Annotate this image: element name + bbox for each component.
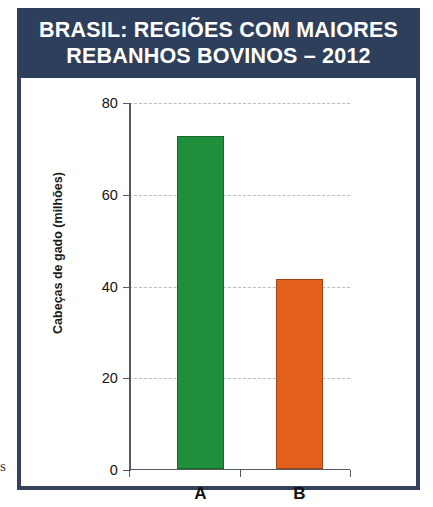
y-axis-line [129,103,131,471]
y-tick-label-80: 80 [102,95,127,111]
chart-title-banner: BRASIL: REGIÕES COM MAIORES REBANHOS BOV… [17,8,420,78]
chart-title-line-1: BRASIL: REGIÕES COM MAIORES [39,17,398,43]
edge-text-fragment: s [0,458,9,480]
y-axis-title: Cabeças de gado (milhões) [51,153,65,353]
y-tick-label-0: 0 [110,462,127,478]
bar-A[interactable] [177,136,224,469]
axes: 80 60 40 20 0 A B [129,103,350,470]
x-axis-line [129,469,350,471]
x-tick-mark-mid [240,470,241,477]
chart-title-line-2: REBANHOS BOVINOS – 2012 [66,43,371,69]
plot-area: Cabeças de gado (milhões) 80 60 40 20 0 [21,78,416,486]
x-tick-label-A: A [194,484,206,504]
gridline-60 [129,195,350,196]
figure-container: BRASIL: REGIÕES COM MAIORES REBANHOS BOV… [0,0,433,507]
x-tick-label-B: B [293,484,305,504]
bar-B[interactable] [276,279,323,469]
y-tick-label-20: 20 [102,370,127,386]
y-tick-label-40: 40 [102,279,127,295]
gridline-80 [129,103,350,104]
x-tick-mark-A [129,470,130,477]
y-tick-label-60: 60 [102,187,127,203]
x-tick-mark-B [350,470,351,477]
